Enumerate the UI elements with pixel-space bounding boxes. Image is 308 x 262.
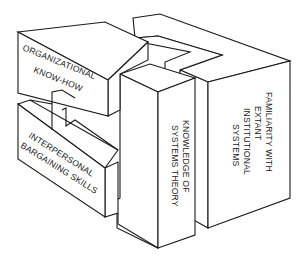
label-familiarity-line1: FAMILIARITY WITH (264, 92, 274, 172)
label-familiarity-line4: SYSTEMS (231, 124, 241, 167)
interlocking-blocks-diagram: ORGANIZATIONAL KNOW-HOW INTERPERSONAL BA… (0, 0, 308, 262)
label-systems-line2: SYSTEMS THEORY (170, 125, 180, 207)
label-familiarity-line2: EXTANT (253, 106, 263, 141)
label-familiarity-line3: INSTITUTIONAL (242, 108, 252, 175)
label-systems-line1: KNOWLEDGE OF (181, 120, 191, 193)
